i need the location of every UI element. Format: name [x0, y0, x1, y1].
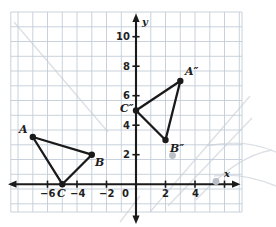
- x-tick-label: −4: [70, 189, 85, 199]
- y-tick-label: 4: [123, 121, 130, 131]
- label-a: A: [19, 124, 28, 135]
- label-b: B: [95, 157, 104, 168]
- graph-figure: A B C A″ B″ C″ y x −6 −4 −2 0 2 4 2 4 6 …: [0, 0, 276, 227]
- label-b-double-prime: B″: [170, 143, 184, 154]
- y-tick-label: 8: [123, 62, 130, 72]
- label-a-double-prime: A″: [185, 66, 198, 77]
- vertex-b-double-prime: [162, 137, 168, 143]
- vertex-a: [30, 134, 36, 140]
- x-tick-label: −6: [40, 189, 55, 199]
- y-tick-label: 6: [123, 91, 130, 101]
- y-axis-label: y: [142, 17, 148, 27]
- x-tick-label: 2: [162, 189, 169, 199]
- x-tick-label: −2: [99, 189, 114, 199]
- artifact-points: [169, 152, 219, 185]
- x-axis-label: x: [224, 169, 230, 179]
- y-tick-label: 10: [116, 32, 130, 42]
- label-c: C: [57, 188, 66, 199]
- x-tick-label: 0: [122, 189, 129, 199]
- triangle-a2b2c2: [133, 78, 184, 143]
- vertex-a-double-prime: [177, 78, 183, 84]
- label-c-double-prime: C″: [120, 103, 134, 114]
- y-tick-label: 2: [123, 150, 130, 160]
- x-tick-label: 4: [192, 189, 199, 199]
